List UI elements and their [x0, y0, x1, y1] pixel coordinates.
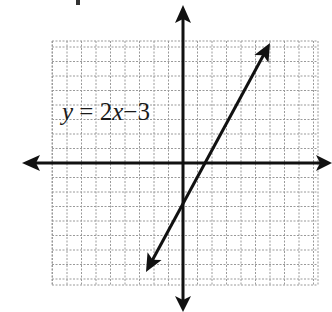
coordinate-plane [0, 0, 332, 312]
equation-coef: 2 [100, 98, 113, 125]
equation-var-y: y [62, 98, 73, 125]
equation-const: 3 [137, 98, 150, 125]
function-line [146, 43, 270, 272]
equation-var-x: x [112, 98, 123, 125]
equation-label: y = 2x−3 [62, 99, 150, 124]
equation-op: − [123, 98, 137, 125]
graph-figure: y = 2x−3 [0, 0, 332, 312]
equation-equals: = [79, 98, 93, 125]
axes [22, 5, 332, 312]
